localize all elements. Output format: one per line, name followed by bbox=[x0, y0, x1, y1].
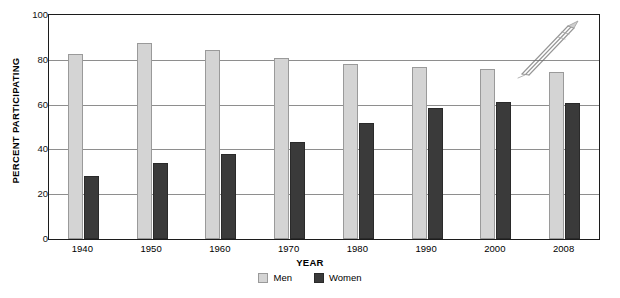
chart-legend: MenWomen bbox=[0, 272, 620, 283]
y-tick-label: 0 bbox=[22, 233, 48, 244]
bar-group bbox=[118, 15, 187, 239]
x-tick-label-1960: 1960 bbox=[209, 243, 230, 254]
x-tick-label-1950: 1950 bbox=[141, 243, 162, 254]
bar-group bbox=[187, 15, 256, 239]
x-tick-label-2000: 2000 bbox=[484, 243, 505, 254]
bar-men-2008 bbox=[549, 72, 564, 239]
bar-group bbox=[530, 15, 599, 239]
legend-label: Men bbox=[273, 272, 291, 283]
bar-men-2000 bbox=[480, 69, 495, 239]
bar-women-1970 bbox=[290, 142, 305, 239]
x-tick-label-1990: 1990 bbox=[416, 243, 437, 254]
y-tick-label: 80 bbox=[22, 53, 48, 64]
y-axis-ticks: 020406080100 bbox=[14, 14, 48, 240]
bar-women-1950 bbox=[153, 163, 168, 239]
y-tick-label: 100 bbox=[22, 9, 48, 20]
bar-women-1990 bbox=[428, 108, 443, 239]
x-tick-label-1940: 1940 bbox=[72, 243, 93, 254]
y-tick-label: 40 bbox=[22, 143, 48, 154]
bar-group bbox=[393, 15, 462, 239]
cut-off-caption bbox=[18, 288, 318, 296]
x-tick-label-1980: 1980 bbox=[347, 243, 368, 254]
bar-men-1940 bbox=[68, 54, 83, 239]
legend-entry-men: Men bbox=[258, 272, 291, 283]
bar-men-1960 bbox=[205, 50, 220, 239]
plot-area bbox=[48, 14, 600, 240]
y-tick-label: 60 bbox=[22, 98, 48, 109]
bar-women-2000 bbox=[496, 102, 511, 239]
bar-group bbox=[324, 15, 393, 239]
bar-men-1970 bbox=[274, 58, 289, 239]
bar-group bbox=[255, 15, 324, 239]
bar-chart-figure: PERCENT PARTICIPATING 020406080100 19401… bbox=[0, 0, 620, 298]
x-axis-title-text: YEAR bbox=[296, 257, 324, 268]
legend-entry-women: Women bbox=[314, 272, 362, 283]
bar-men-1950 bbox=[137, 43, 152, 239]
x-tick-label-1970: 1970 bbox=[278, 243, 299, 254]
bar-men-1990 bbox=[412, 67, 427, 239]
y-tick-label: 20 bbox=[22, 188, 48, 199]
bar-women-1940 bbox=[84, 176, 99, 239]
bar-women-2008 bbox=[565, 103, 580, 239]
men-swatch bbox=[258, 273, 268, 283]
bar-group bbox=[462, 15, 531, 239]
legend-label: Women bbox=[329, 272, 362, 283]
bar-group bbox=[49, 15, 118, 239]
bar-women-1960 bbox=[221, 154, 236, 239]
x-axis-title: YEAR bbox=[0, 257, 620, 268]
bar-men-1980 bbox=[343, 64, 358, 239]
x-tick-label-2008: 2008 bbox=[553, 243, 574, 254]
bar-women-1980 bbox=[359, 123, 374, 239]
women-swatch bbox=[314, 273, 324, 283]
